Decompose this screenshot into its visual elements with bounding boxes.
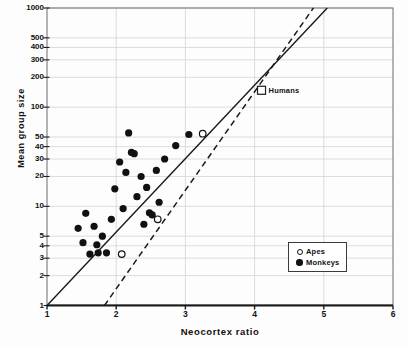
- filled-circle-icon: [293, 259, 306, 266]
- y-tick-label: 4: [10, 242, 44, 250]
- y-tick-label: 10: [10, 202, 44, 210]
- x-tick-label: 4: [245, 309, 265, 319]
- legend-label-monkeys: Monkeys: [306, 258, 340, 267]
- x-axis-title: Neocortex ratio: [47, 326, 393, 337]
- data-point-monkey: [93, 241, 100, 248]
- data-points-group: [75, 129, 206, 257]
- data-point-monkey: [95, 249, 102, 256]
- x-tick-label: 5: [314, 309, 334, 319]
- trend-lines-group: [47, 8, 327, 306]
- y-tick-label: 2: [10, 272, 44, 280]
- y-tick-label: 3: [10, 254, 44, 262]
- y-tick-label: 400: [10, 43, 44, 51]
- open-circle-icon: [293, 249, 306, 255]
- annotation-markers-group: [258, 86, 266, 94]
- data-point-monkey: [108, 216, 115, 223]
- humans-annotation-label: Humans: [269, 86, 300, 95]
- data-point-monkey: [82, 210, 89, 217]
- x-tick-label: 3: [175, 309, 195, 319]
- data-point-monkey: [120, 205, 127, 212]
- x-tick-label: 1: [37, 309, 57, 319]
- data-point-monkey: [79, 239, 86, 246]
- chart-canvas: [0, 0, 408, 346]
- y-tick-label: 500: [10, 34, 44, 42]
- plot-svg: [0, 0, 408, 346]
- data-point-ape: [199, 130, 206, 137]
- humans-square-marker: [258, 86, 266, 94]
- legend-item-monkeys: Monkeys: [293, 257, 340, 268]
- data-point-monkey: [131, 150, 138, 157]
- data-point-monkey: [125, 129, 132, 136]
- data-point-monkey: [99, 233, 106, 240]
- data-point-ape: [154, 216, 161, 223]
- data-point-monkey: [111, 185, 118, 192]
- data-point-monkey: [122, 169, 129, 176]
- trend-line-solid-regression: [47, 8, 327, 306]
- y-tick-label: 1000: [10, 4, 44, 12]
- data-point-monkey: [103, 249, 110, 256]
- legend-item-apes: Apes: [293, 246, 340, 257]
- scatter-chart-figure: 1234510203040501002003004005001000 12345…: [0, 0, 408, 346]
- y-axis-title: Mean group size: [16, 58, 30, 198]
- data-point-monkey: [161, 155, 168, 162]
- data-point-monkey: [133, 193, 140, 200]
- data-point-monkey: [156, 199, 163, 206]
- x-tick-label: 2: [106, 309, 126, 319]
- data-point-ape: [118, 251, 125, 258]
- x-tick-label: 6: [383, 309, 403, 319]
- legend-label-apes: Apes: [306, 247, 325, 256]
- data-point-monkey: [172, 142, 179, 149]
- data-point-monkey: [140, 221, 147, 228]
- data-point-monkey: [86, 250, 93, 257]
- data-point-monkey: [143, 184, 150, 191]
- data-point-monkey: [90, 223, 97, 230]
- chart-legend: Apes Monkeys: [288, 242, 347, 272]
- data-point-monkey: [185, 131, 192, 138]
- data-point-monkey: [116, 158, 123, 165]
- data-point-monkey: [138, 173, 145, 180]
- data-point-monkey: [153, 167, 160, 174]
- data-point-monkey: [75, 225, 82, 232]
- y-tick-label: 5: [10, 232, 44, 240]
